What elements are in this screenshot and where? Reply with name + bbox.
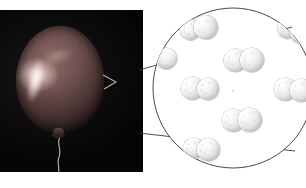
magnification-circle — [153, 8, 306, 168]
callout-graphic — [0, 0, 306, 188]
figure-root: Balloon with magnified view of gas molec… — [0, 0, 306, 188]
balloon-callout-notch — [103, 75, 116, 89]
